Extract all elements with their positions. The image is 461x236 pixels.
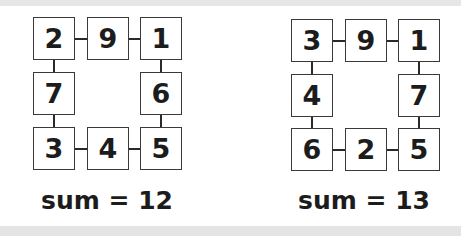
sum-label-left: sum = 12 [27,186,187,215]
connector [75,148,87,150]
connector [418,62,420,74]
cell-mid-left: 7 [33,72,75,115]
connector [387,149,398,151]
cell-bot-left: 3 [33,127,75,170]
connector [129,148,140,150]
cell-bot-left: 6 [291,128,333,171]
cell-top-left: 3 [291,19,333,62]
top-border-band [0,0,461,6]
cell-top-right: 1 [398,19,440,62]
connector [53,115,55,127]
cell-top-right: 1 [140,17,182,60]
cell-bot-mid: 2 [345,128,387,171]
cell-bot-mid: 4 [87,127,129,170]
cell-mid-right: 7 [398,74,440,117]
cell-top-mid: 9 [345,19,387,62]
cell-bot-right: 5 [140,127,182,170]
cell-top-left: 2 [33,17,75,60]
connector [53,60,55,72]
connector [418,117,420,128]
connector [160,115,162,127]
connector [160,60,162,72]
cell-top-mid: 9 [87,17,129,60]
connector [311,117,313,128]
connector [333,40,345,42]
bottom-border-band [0,226,461,236]
connector [333,149,345,151]
connector [129,38,140,40]
connector [311,62,313,74]
connector [75,38,87,40]
cell-bot-right: 5 [398,128,440,171]
cell-mid-left: 4 [291,74,333,117]
cell-mid-right: 6 [140,72,182,115]
sum-label-right: sum = 13 [284,186,444,215]
connector [387,40,398,42]
